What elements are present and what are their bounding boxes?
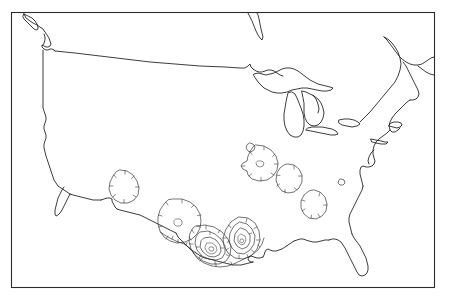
map-canvas [0, 0, 463, 304]
contour-map-figure [0, 0, 463, 304]
